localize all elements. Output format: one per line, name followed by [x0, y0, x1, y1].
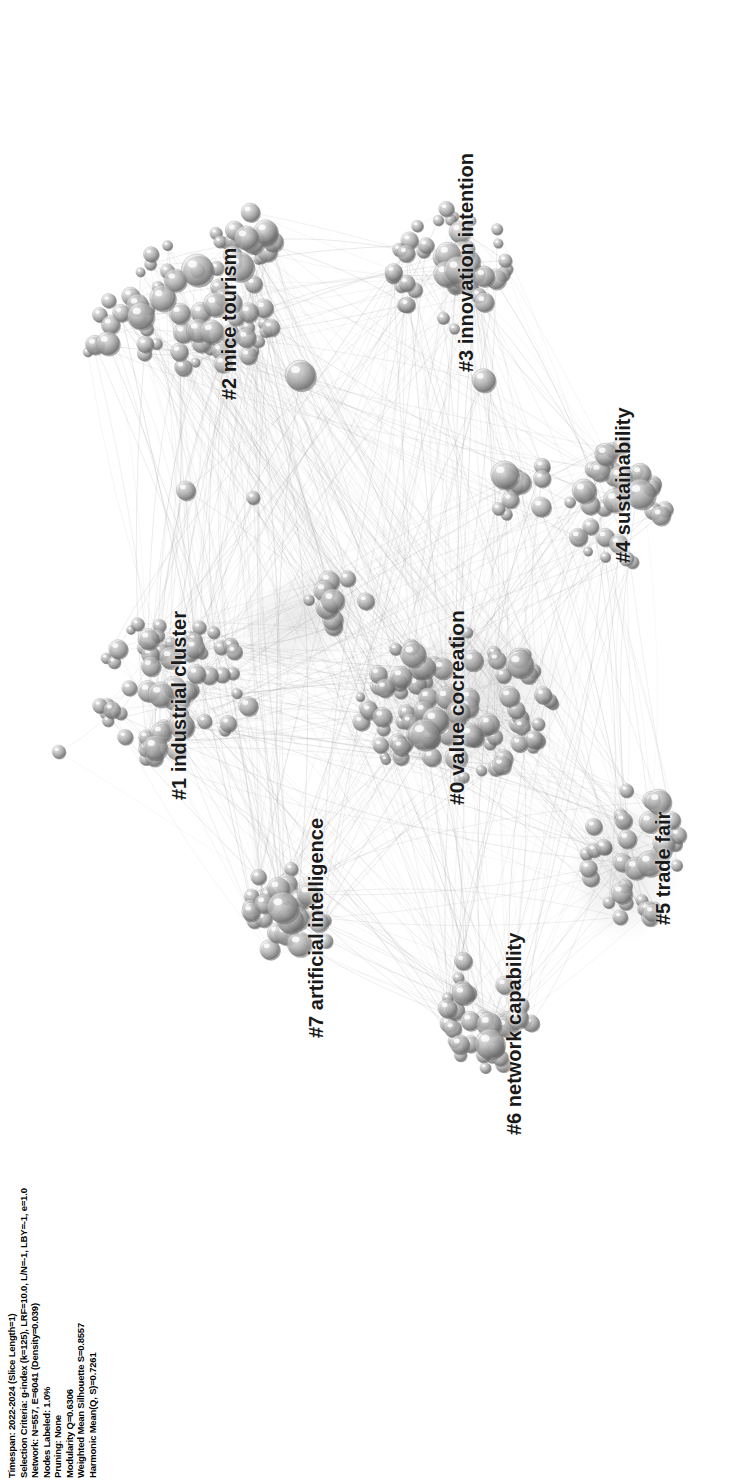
node-highlight: [55, 748, 59, 751]
node-highlight: [193, 360, 196, 362]
metadata-line-1: Selection Criteria: g-index (k=125), LRF…: [18, 1188, 29, 1478]
node-highlight: [226, 641, 231, 645]
node-sphere: [492, 224, 503, 235]
node-sphere: [150, 285, 176, 311]
node-sphere: [565, 497, 576, 508]
node-sphere: [418, 238, 434, 254]
node-highlight: [478, 767, 481, 770]
node-highlight: [142, 633, 148, 638]
node-sphere: [399, 297, 415, 313]
node-highlight: [323, 575, 329, 580]
node-sphere: [109, 640, 128, 659]
node-highlight: [537, 473, 542, 477]
node-highlight: [415, 725, 424, 732]
node-sphere: [176, 481, 195, 500]
node-highlight: [402, 708, 407, 712]
node-highlight: [618, 815, 623, 819]
node-highlight: [148, 740, 155, 746]
node-highlight: [245, 207, 251, 212]
cluster-label-5[interactable]: #5 trade fair: [652, 812, 675, 925]
node-highlight: [441, 247, 448, 253]
cluster-label-6[interactable]: #6 network capability: [503, 933, 526, 1135]
node-highlight: [287, 865, 291, 868]
node-highlight: [318, 584, 324, 589]
node-highlight: [448, 1023, 453, 1027]
node-highlight: [458, 956, 463, 960]
node-highlight: [436, 662, 442, 667]
node-sphere: [444, 1020, 461, 1037]
node-highlight: [495, 241, 498, 243]
node-sphere: [611, 882, 632, 903]
node-highlight: [230, 647, 235, 651]
node-sphere: [502, 491, 519, 508]
node-sphere: [437, 312, 449, 324]
node-highlight: [103, 655, 106, 658]
node-sphere: [476, 765, 487, 776]
node-highlight: [131, 298, 138, 303]
cluster-label-2[interactable]: #2 mice tourism: [218, 248, 241, 400]
cluster-label-1[interactable]: #1 industrial cluster: [168, 611, 191, 800]
node-sphere: [163, 241, 173, 251]
node-sphere: [613, 910, 628, 925]
node-highlight: [451, 326, 454, 328]
node-sphere: [615, 812, 632, 829]
node-highlight: [245, 906, 251, 910]
node-highlight: [177, 327, 183, 332]
node-sphere: [475, 1029, 504, 1058]
metadata-line-0: Timespan: 2022-2024 (Slice Length=1): [6, 1314, 17, 1479]
node-highlight: [243, 350, 248, 354]
node-highlight: [105, 717, 108, 720]
node-highlight: [511, 656, 519, 662]
node-highlight: [112, 643, 118, 648]
node-highlight: [457, 987, 464, 992]
node-highlight: [134, 620, 138, 623]
node-highlight: [239, 231, 246, 237]
node-highlight: [454, 1039, 460, 1044]
node-highlight: [528, 734, 534, 738]
cluster-label-0[interactable]: #0 value cocreation: [445, 610, 469, 805]
node-highlight: [464, 1015, 470, 1020]
node-sphere: [141, 656, 161, 676]
node-sphere: [143, 735, 167, 759]
node-highlight: [361, 596, 366, 600]
node-sphere: [433, 215, 444, 226]
node-highlight: [156, 622, 160, 625]
cluster-label-7[interactable]: #7 artificial intelligence: [305, 818, 328, 1038]
node-highlight: [116, 308, 121, 312]
node-highlight: [392, 645, 396, 648]
cluster-label-3[interactable]: #3 innovation intention: [455, 153, 478, 372]
node-highlight: [223, 719, 228, 723]
node-highlight: [168, 273, 175, 278]
node-highlight: [105, 319, 111, 323]
node-sphere: [181, 254, 213, 286]
metadata-line-4: Pruning: None: [52, 1415, 63, 1478]
node-highlight: [442, 204, 447, 208]
node-sphere: [197, 714, 212, 729]
node-highlight: [195, 623, 199, 626]
node-highlight: [208, 297, 215, 303]
node-sphere: [137, 336, 154, 353]
node-sphere: [170, 343, 188, 361]
node-highlight: [534, 720, 538, 723]
node-highlight: [379, 682, 385, 686]
node-highlight: [191, 668, 197, 672]
node-sphere: [499, 686, 519, 706]
node-sphere: [454, 952, 472, 970]
cluster-label-4[interactable]: #4 sustainability: [612, 407, 635, 563]
node-highlight: [376, 740, 381, 744]
node-sphere: [585, 818, 602, 835]
node-highlight: [501, 257, 505, 260]
node-highlight: [440, 315, 444, 318]
node-highlight: [140, 339, 145, 343]
node-highlight: [147, 250, 152, 254]
node-sphere: [52, 745, 66, 759]
node-highlight: [145, 660, 151, 665]
node-sphere: [618, 830, 637, 849]
node-highlight: [343, 574, 348, 578]
node-highlight: [617, 857, 622, 861]
node-sphere: [651, 506, 670, 525]
node-sphere: [412, 220, 424, 232]
node-highlight: [174, 347, 179, 351]
node-sphere: [267, 892, 297, 922]
node-highlight: [217, 644, 221, 647]
